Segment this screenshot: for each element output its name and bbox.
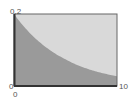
area-chart: 0.2 0 0 10 <box>0 0 130 102</box>
y-tick-top: 0.2 <box>10 7 22 16</box>
x-tick-right: 10 <box>119 82 128 91</box>
x-tick-left: 0 <box>13 90 18 99</box>
